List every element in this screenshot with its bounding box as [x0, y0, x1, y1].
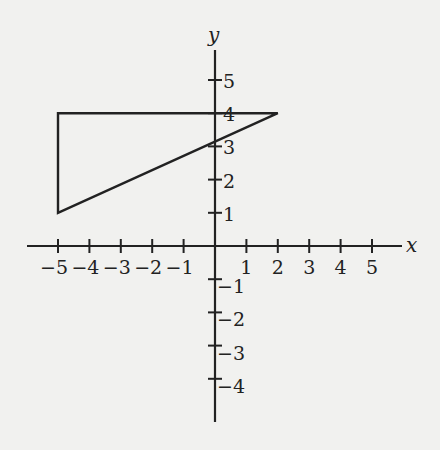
triangle	[58, 113, 278, 213]
y-tick-label: 5	[223, 70, 235, 92]
x-tick-label: −2	[134, 256, 162, 278]
x-tick-label: −3	[103, 256, 131, 278]
x-tick-label: 2	[272, 256, 284, 278]
y-tick-label: −4	[217, 375, 245, 397]
y-tick-label: −1	[217, 275, 245, 297]
x-tick-label: −1	[166, 256, 194, 278]
y-tick-label: 2	[223, 170, 235, 192]
x-axis-label: x	[406, 233, 417, 257]
x-tick-label: 3	[303, 256, 315, 278]
coordinate-plane: −5−4−3−2−11234554321−1−2−3−4 x y	[0, 0, 440, 450]
y-tick-label: −2	[217, 308, 245, 330]
x-tick-label: 4	[335, 256, 347, 278]
shapes	[58, 113, 278, 213]
x-tick-label: 5	[366, 256, 378, 278]
y-tick-label: 1	[223, 203, 235, 225]
tick-labels: −5−4−3−2−11234554321−1−2−3−4	[40, 70, 378, 397]
y-tick-label: 3	[223, 136, 235, 158]
y-axis-label: y	[207, 23, 220, 47]
y-tick-label: −3	[217, 342, 245, 364]
x-tick-label: −5	[40, 256, 68, 278]
axes	[27, 50, 402, 422]
x-tick-label: −4	[71, 256, 99, 278]
